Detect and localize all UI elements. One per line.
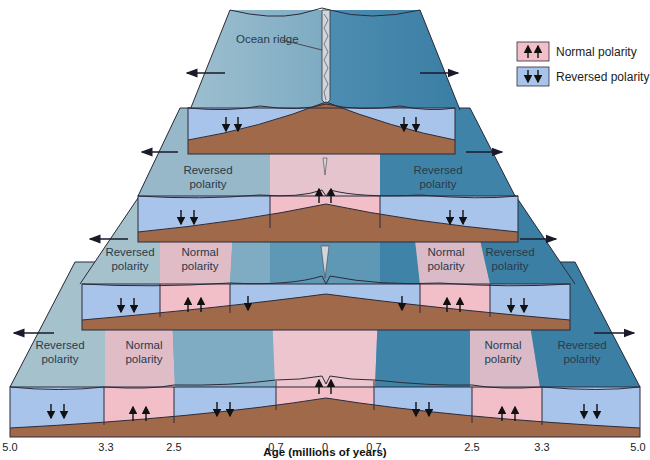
cross-section-1 [188,102,455,154]
tick-label: 2.5 [464,441,479,453]
cross-section-2 [138,190,518,242]
tick-label: 3.3 [534,441,549,453]
age-axis: 5.0 3.3 2.5 0.7 0 0.7 2.5 3.3 5.0 Age (m… [2,441,645,458]
legend-normal-label: Normal polarity [556,45,637,59]
legend-reversed-swatch [517,67,549,86]
ocean-ridge-label: Ocean ridge [236,33,299,45]
tick-label: 3.3 [98,441,113,453]
tick-label: 5.0 [2,441,17,453]
cross-section-3 [82,276,570,330]
tick-label: 2.5 [166,441,181,453]
legend-reversed-label: Reversed polarity [556,70,649,84]
legend: Normal polarity Reversed polarity [517,42,649,86]
tick-label: 5.0 [630,441,645,453]
legend-normal-swatch [517,42,549,61]
axis-title: Age (millions of years) [263,446,387,458]
seafloor-spreading-diagram: Ocean ridge Reversedpolarity Reversedpol… [0,0,650,460]
ocean-ridge-crack [322,10,330,104]
